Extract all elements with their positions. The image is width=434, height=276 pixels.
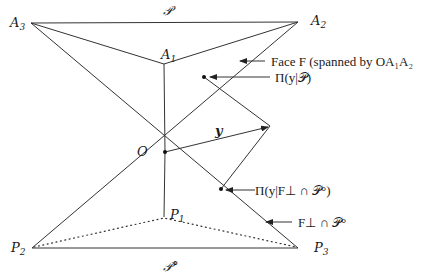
label-polar-cone: 𝒫°	[163, 259, 179, 274]
edge-o-p1	[164, 152, 165, 217]
point-o	[163, 150, 167, 154]
cone-decomposition-diagram: A3 A2 A1 O P1 P2 P3 𝒫 𝒫° y Face F (spann…	[0, 0, 434, 276]
projection-line-polar	[221, 126, 270, 189]
annotation-face-f: Face F (spanned by OA₁A₂	[271, 54, 413, 69]
edge-o-a1	[164, 64, 165, 152]
projection-line-cone	[204, 77, 270, 126]
dotted-edge-p2-p1-p3	[34, 218, 296, 247]
label-vector-y: y	[214, 123, 224, 138]
point-proj-polar	[219, 187, 223, 191]
label-a3: A3	[9, 15, 25, 32]
point-proj-cone	[202, 75, 206, 79]
label-p3: P3	[313, 240, 329, 257]
edge-a3-a1	[31, 23, 164, 64]
label-o: O	[137, 144, 148, 159]
annotation-proj-cone: Π(y|𝒫)	[275, 70, 311, 85]
annotation-polar-face: F⊥ ∩ 𝒫°	[298, 215, 346, 230]
label-a2: A2	[310, 13, 326, 30]
label-a1: A1	[160, 47, 176, 64]
label-p2: P2	[10, 240, 26, 257]
label-cone-p: 𝒫	[163, 3, 176, 18]
label-p1: P1	[169, 207, 184, 224]
edge-a3-a2	[31, 22, 298, 23]
annotation-proj-polar: Π(y|F⊥ ∩ 𝒫°)	[255, 183, 330, 198]
